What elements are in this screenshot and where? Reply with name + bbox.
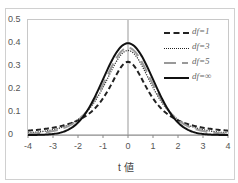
x-tick-label: 3 — [196, 141, 210, 151]
dotted-line-icon — [164, 48, 189, 49]
x-tick-label: -1 — [96, 141, 110, 151]
x-tick-label: 0 — [121, 141, 135, 151]
y-tick-label: 0.2 — [8, 83, 25, 93]
solid-line-icon — [164, 77, 189, 79]
y-tick-label: 0.4 — [8, 37, 25, 47]
x-tick-label: -3 — [46, 141, 60, 151]
y-tick-label: 0.3 — [8, 60, 25, 70]
y-tick-label: 0.5 — [8, 14, 25, 24]
legend: df=1 df=3 df=5 df=∞ — [164, 25, 228, 85]
legend-item-dfinf: df=∞ — [164, 70, 228, 85]
long-dash-line-icon — [164, 62, 176, 64]
x-tick-label: 1 — [146, 141, 160, 151]
legend-item-df5: df=5 — [164, 55, 228, 70]
legend-item-df1: df=1 — [164, 25, 228, 40]
dashed-line-icon — [164, 32, 189, 34]
x-tick-label: -4 — [21, 141, 35, 151]
y-tick-label: 0.1 — [8, 106, 25, 116]
legend-item-df3: df=3 — [164, 40, 228, 55]
y-tick-label: 0 — [8, 129, 25, 139]
x-tick-label: -2 — [71, 141, 85, 151]
x-tick-label: 2 — [171, 141, 185, 151]
x-tick-label: 4 — [221, 141, 235, 151]
x-axis-label: t 値 — [118, 159, 134, 174]
